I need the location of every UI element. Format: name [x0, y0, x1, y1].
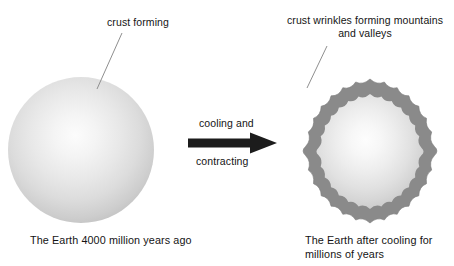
cooling-arrow-icon [188, 132, 278, 154]
label-crust-forming: crust forming [107, 16, 169, 29]
caption-young-earth: The Earth 4000 million years ago [30, 234, 192, 248]
cooled-earth-sphere [296, 76, 444, 226]
label-contracting: contracting [196, 155, 248, 168]
diagram-canvas: crust forming cooling and contracting [0, 0, 454, 266]
label-crust-wrinkles: crust wrinkles forming mountains and val… [280, 14, 450, 39]
caption-cooled-earth: The Earth after cooling for millions of … [305, 234, 454, 261]
label-cooling-and: cooling and [199, 117, 254, 130]
young-earth-sphere [8, 77, 154, 223]
